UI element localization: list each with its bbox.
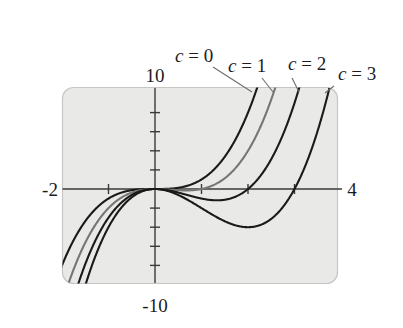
- curve-label-c1: c = 1: [228, 55, 266, 76]
- y-axis-max-label: 10: [146, 65, 165, 86]
- curve-label-c0: c = 0: [175, 45, 213, 66]
- graph-figure: c = 0 c = 1 c = 2 c = 3 10 -10 -2 4: [0, 0, 403, 328]
- curve-label-c3: c = 3: [338, 63, 376, 84]
- y-axis-min-label: -10: [142, 295, 167, 316]
- x-axis-max-label: 4: [347, 179, 357, 200]
- x-axis-min-label: -2: [42, 179, 58, 200]
- curve-label-c2: c = 2: [288, 53, 326, 74]
